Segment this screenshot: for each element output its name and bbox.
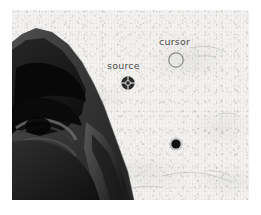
photograph-plate: cursor source [12,10,249,200]
plain-dot-marker-icon[interactable] [164,132,188,156]
cursor-label: cursor [159,37,190,47]
annotated-photo-scene: cursor source [0,0,261,215]
source-label: source [107,61,140,71]
face-silhouette [12,10,142,200]
cursor-marker-icon[interactable] [165,49,187,71]
source-marker-icon[interactable] [117,72,139,94]
